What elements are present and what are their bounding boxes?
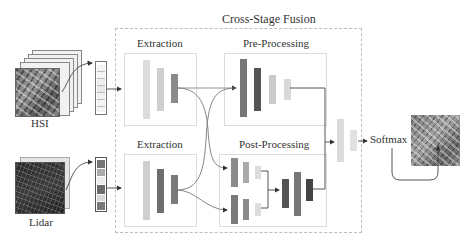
connector-arrows	[0, 0, 476, 242]
